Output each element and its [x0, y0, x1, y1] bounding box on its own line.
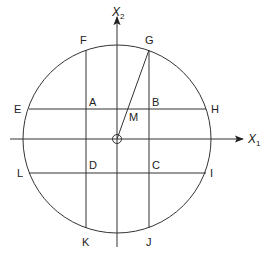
point-label-j: J	[146, 236, 152, 248]
circle-grid-diagram: X2 X1 F G E A B H M D C L I K J	[0, 0, 269, 258]
point-label-h: H	[211, 103, 219, 115]
point-label-c: C	[152, 159, 160, 171]
point-label-l: L	[17, 167, 23, 179]
point-label-e: E	[14, 103, 21, 115]
point-label-k: K	[82, 236, 90, 248]
point-label-b: B	[152, 96, 159, 108]
point-label-f: F	[80, 34, 87, 46]
x1-axis-label: X1	[247, 132, 261, 148]
x2-axis-label: X2	[111, 5, 125, 21]
point-label-i: I	[210, 167, 213, 179]
point-label-m: M	[129, 111, 138, 123]
point-label-g: G	[145, 34, 154, 46]
point-label-d: D	[89, 159, 97, 171]
radius-to-g	[117, 50, 149, 139]
point-label-a: A	[89, 96, 97, 108]
